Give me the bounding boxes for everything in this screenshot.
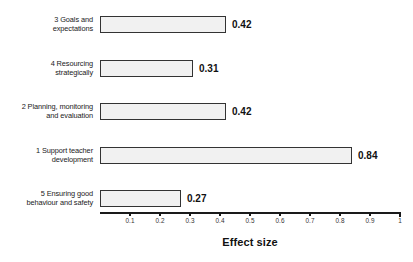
bar-value-label: 0.42 <box>232 106 251 117</box>
bar-value-label: 0.42 <box>232 19 251 30</box>
bar-category-label: 4 Resourcing strategically <box>0 59 93 77</box>
x-axis-tick <box>249 212 250 216</box>
x-axis-tick-label: 0.1 <box>126 217 135 224</box>
x-axis-tick <box>219 212 220 216</box>
bar-value-label: 0.27 <box>187 193 206 204</box>
bar-category-label: 3 Goals and expectations <box>0 15 93 33</box>
x-axis-tick-label: 0.9 <box>366 217 375 224</box>
effect-size-bar-chart: 3 Goals and expectations0.424 Resourcing… <box>0 0 413 262</box>
x-axis-title: Effect size <box>100 236 400 248</box>
bar-track: 0.27 <box>100 190 400 207</box>
x-axis-tick <box>129 212 130 216</box>
x-axis-tick-label: 0.5 <box>246 217 255 224</box>
x-axis-tick <box>189 212 190 216</box>
x-axis-tick-label: 0.3 <box>186 217 195 224</box>
x-axis-tick-label: 0.6 <box>276 217 285 224</box>
x-axis-tick <box>369 212 370 216</box>
bar-track: 0.42 <box>100 16 400 33</box>
bar-value-label: 0.31 <box>199 63 218 74</box>
bar-row: 2 Planning, monitoring and evaluation0.4… <box>0 91 413 131</box>
bar-track: 0.31 <box>100 60 400 77</box>
bar-row: 4 Resourcing strategically0.31 <box>0 48 413 88</box>
x-axis-tick <box>339 212 340 216</box>
bar-category-label: 1 Support teacher development <box>0 146 93 164</box>
x-axis-tick-label: 1 <box>398 217 402 224</box>
chart-plot-area: 3 Goals and expectations0.424 Resourcing… <box>0 0 413 212</box>
bar <box>100 16 226 33</box>
x-axis-tick-label: 0.7 <box>306 217 315 224</box>
bar-row: 3 Goals and expectations0.42 <box>0 4 413 44</box>
bar <box>100 103 226 120</box>
bar-category-label: 5 Ensuring good behaviour and safety <box>0 189 93 207</box>
x-axis-tick-label: 0.2 <box>156 217 165 224</box>
x-axis-tick <box>279 212 280 216</box>
bar <box>100 190 181 207</box>
bar-track: 0.42 <box>100 103 400 120</box>
x-axis-tick-label: 0.4 <box>216 217 225 224</box>
bar-value-label: 0.84 <box>358 150 377 161</box>
x-axis-tick-label: 0.8 <box>336 217 345 224</box>
x-axis-tick <box>159 212 160 216</box>
bar-row: 1 Support teacher development0.84 <box>0 135 413 175</box>
x-axis-tick <box>309 212 310 216</box>
bar-track: 0.84 <box>100 147 400 164</box>
bar <box>100 60 193 77</box>
bar-category-label: 2 Planning, monitoring and evaluation <box>0 102 93 120</box>
bar <box>100 147 352 164</box>
